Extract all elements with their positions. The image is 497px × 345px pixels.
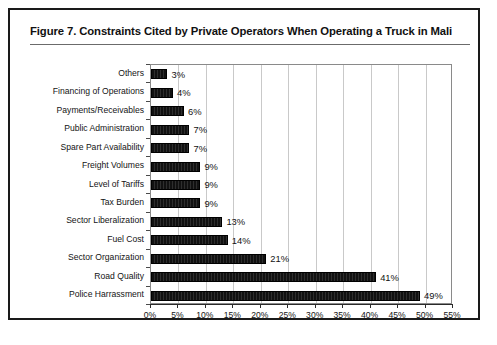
bar-value-label: 7% [193, 124, 207, 135]
bar [151, 272, 376, 282]
bar [151, 88, 173, 98]
y-axis-tick [146, 267, 150, 268]
bar-row: 9% [151, 194, 451, 212]
category-label: Police Harrassment [0, 289, 144, 299]
bar-row: 14% [151, 231, 451, 249]
bar-value-label: 9% [204, 198, 218, 209]
x-axis-line [150, 304, 452, 305]
bar-value-label: 9% [204, 161, 218, 172]
x-axis-tick [287, 304, 288, 308]
y-axis-tick [146, 82, 150, 83]
x-axis-tick-label: 50% [410, 310, 440, 320]
category-label: Financing of Operations [0, 86, 144, 96]
title-divider [30, 44, 470, 45]
bar-row: 21% [151, 250, 451, 268]
y-axis-tick [146, 249, 150, 250]
category-label: Public Administration [0, 123, 144, 133]
x-axis-tick-label: 25% [272, 310, 302, 320]
bar-value-label: 13% [226, 216, 245, 227]
category-label: Level of Tariffs [0, 179, 144, 189]
category-label: Tax Burden [0, 197, 144, 207]
bar [151, 69, 167, 79]
x-axis-tick [315, 304, 316, 308]
x-axis-tick [177, 304, 178, 308]
x-axis-tick-label: 55% [437, 310, 467, 320]
bar [151, 198, 200, 208]
bar-value-label: 21% [270, 253, 289, 264]
plot-area: 3%4%6%7%7%9%9%9%13%14%21%41%49% [150, 64, 452, 304]
bar-row: 7% [151, 139, 451, 157]
bar [151, 217, 222, 227]
bar-row: 41% [151, 268, 451, 286]
x-axis-tick-label: 20% [245, 310, 275, 320]
x-axis-tick-label: 0% [135, 310, 165, 320]
bar-value-label: 4% [177, 87, 191, 98]
x-axis-tick [342, 304, 343, 308]
bar [151, 125, 189, 135]
x-axis-tick [452, 304, 453, 308]
x-axis-tick [397, 304, 398, 308]
bar-value-label: 41% [380, 272, 399, 283]
bar [151, 254, 266, 264]
x-axis-tick [232, 304, 233, 308]
figure-title: Figure 7. Constraints Cited by Private O… [30, 25, 470, 37]
bar [151, 180, 200, 190]
x-axis-tick-label: 30% [300, 310, 330, 320]
bar-row: 4% [151, 83, 451, 101]
bar-value-label: 14% [232, 235, 251, 246]
y-axis-tick [146, 286, 150, 287]
y-axis-tick [146, 175, 150, 176]
bar [151, 291, 420, 301]
bar-value-label: 49% [424, 290, 443, 301]
x-axis-tick-label: 15% [217, 310, 247, 320]
category-label: Sector Liberalization [0, 215, 144, 225]
bar-chart: OthersFinancing of OperationsPayments/Re… [10, 54, 478, 318]
category-label: Others [0, 68, 144, 78]
bar-row: 6% [151, 102, 451, 120]
y-axis-tick [146, 101, 150, 102]
x-axis-tick-label: 40% [355, 310, 385, 320]
y-axis-tick [146, 230, 150, 231]
x-axis-tick-label: 10% [190, 310, 220, 320]
category-label: Road Quality [0, 271, 144, 281]
category-label: Fuel Cost [0, 234, 144, 244]
y-axis-tick [146, 212, 150, 213]
bar-value-label: 3% [171, 69, 185, 80]
category-label: Payments/Receivables [0, 105, 144, 115]
bar-row: 9% [151, 157, 451, 175]
x-axis-tick [150, 304, 151, 308]
bar-row: 13% [151, 213, 451, 231]
bar-row: 49% [151, 287, 451, 305]
category-axis-labels: OthersFinancing of OperationsPayments/Re… [0, 64, 144, 304]
category-label: Spare Part Availability [0, 142, 144, 152]
bar-row: 3% [151, 65, 451, 83]
bar [151, 162, 200, 172]
y-axis-tick [146, 138, 150, 139]
y-axis-tick [146, 193, 150, 194]
figure-container: Figure 7. Constraints Cited by Private O… [8, 8, 480, 320]
bar [151, 235, 228, 245]
y-axis-tick [146, 119, 150, 120]
x-axis-tick [205, 304, 206, 308]
x-axis-tick-label: 5% [162, 310, 192, 320]
bar-value-label: 9% [204, 179, 218, 190]
x-axis-tick-label: 35% [327, 310, 357, 320]
bar-value-label: 6% [188, 106, 202, 117]
category-label: Freight Volumes [0, 160, 144, 170]
bar-row: 7% [151, 120, 451, 138]
x-axis-tick [425, 304, 426, 308]
x-axis-tick [260, 304, 261, 308]
x-axis-tick-label: 45% [382, 310, 412, 320]
x-axis-tick [370, 304, 371, 308]
bar-value-label: 7% [193, 143, 207, 154]
bar [151, 106, 184, 116]
bar [151, 143, 189, 153]
y-axis-tick [146, 156, 150, 157]
y-axis-tick [146, 64, 150, 65]
category-label: Sector Organization [0, 252, 144, 262]
bar-row: 9% [151, 176, 451, 194]
